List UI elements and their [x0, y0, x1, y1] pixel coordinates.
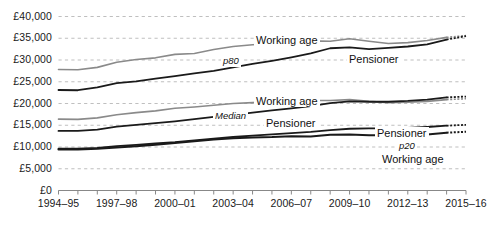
series-annotation: p20: [397, 140, 417, 152]
series-annotation: Working age: [254, 34, 320, 46]
series-annotation: Pensioner: [375, 127, 429, 139]
series-annotation: Working age: [380, 153, 446, 165]
series-annotation: Working age: [254, 95, 320, 107]
series-annotation: Pensioner: [347, 53, 401, 65]
series-annotation: Pensioner: [264, 117, 318, 129]
series-annotation: Median: [213, 110, 248, 122]
series-annotation: p80: [221, 55, 241, 67]
